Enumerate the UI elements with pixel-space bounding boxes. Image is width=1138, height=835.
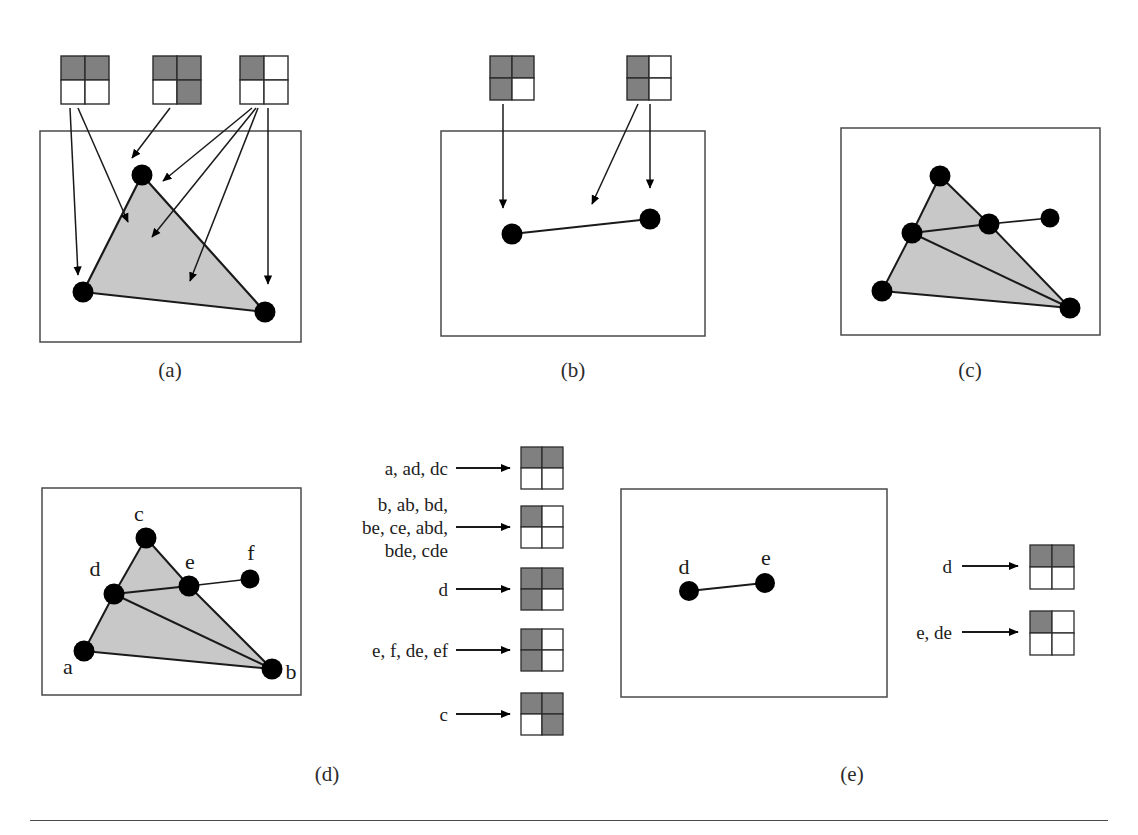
panel-b-icon-1 <box>490 56 534 100</box>
panel-d-vertex-f <box>241 570 260 589</box>
panel-a-icon-2 <box>153 56 201 104</box>
panel-e-group <box>621 489 1074 697</box>
panel-d-vertex-b <box>262 659 283 680</box>
panel-e-vertex-d <box>679 581 699 601</box>
panel-d-label-b: b <box>286 659 297 684</box>
panel-d-label-f: f <box>247 540 255 565</box>
map-label-line: d <box>439 579 449 600</box>
bottom-rule <box>30 820 1108 821</box>
panel-d-vertex-e <box>179 576 200 597</box>
map-label-line: e, f, de, ef <box>372 640 448 661</box>
caption-b: (b) <box>543 358 603 383</box>
map-label-line: a, ad, dc <box>385 458 448 479</box>
figure-root: c d e f a b d e a, ad, dc b, ab, bd, be,… <box>0 0 1138 835</box>
panel-c-group <box>841 128 1100 335</box>
panel-e-label-e: e <box>761 545 771 570</box>
panel-e-map-label-2: e, de <box>840 621 952 644</box>
panel-c-vertex-c <box>930 166 951 187</box>
panel-c-vertex-d <box>902 223 923 244</box>
panel-d-label-c: c <box>134 501 144 526</box>
panel-d-map-label-2: b, ab, bd, be, ce, abd, bde, cde <box>290 493 448 562</box>
panel-d-map-label-3: d <box>300 578 448 601</box>
figure-vector-layer: c d e f a b d e <box>0 0 1138 835</box>
panel-d-vertex-c <box>136 528 157 549</box>
panel-d-label-e: e <box>185 549 195 574</box>
panel-d-vertex-d <box>104 584 125 605</box>
panel-c-vertex-e <box>979 214 1000 235</box>
panel-a-vertex-a <box>73 282 94 303</box>
panel-a-icon-3 <box>240 56 288 104</box>
panel-d-map-icon-5 <box>521 693 563 735</box>
panel-d-label-a: a <box>63 654 73 679</box>
panel-b-vertex-e <box>640 209 661 230</box>
panel-e-label-d: d <box>679 554 690 579</box>
panel-d-vertex-a <box>74 641 95 662</box>
map-label-line: bde, cde <box>290 539 448 562</box>
panel-b-box <box>441 131 705 336</box>
panel-c-vertex-b <box>1060 298 1081 319</box>
panel-d-label-d: d <box>90 556 101 581</box>
panel-d-map-label-5: c <box>300 703 448 726</box>
panel-d-map-icon-1 <box>521 447 563 489</box>
panel-a-vertex-b <box>255 302 276 323</box>
panel-d-map-label-4: e, f, de, ef <box>300 639 448 662</box>
map-label-line: e, de <box>916 622 952 643</box>
panel-a-vertex-c <box>132 165 153 186</box>
caption-e: (e) <box>822 762 882 787</box>
panel-d-map-icon-4 <box>521 629 563 671</box>
panel-c-vertex-a <box>872 281 893 302</box>
panel-b-vertex-d <box>502 224 523 245</box>
panel-d-map-icon-2 <box>521 506 563 548</box>
map-label-line: d <box>943 556 953 577</box>
panel-e-box <box>621 489 887 697</box>
panel-d-group <box>42 488 301 695</box>
panel-c-vertex-f <box>1041 209 1060 228</box>
map-label-line: c <box>440 704 448 725</box>
caption-c: (c) <box>940 358 1000 383</box>
caption-a: (a) <box>140 358 200 383</box>
panel-e-map-icon-2 <box>1030 611 1074 655</box>
panel-e-map-label-1: d <box>840 555 952 578</box>
panel-e-map-icon-1 <box>1030 545 1074 589</box>
panel-b-group <box>441 56 705 336</box>
panel-b-icon-2 <box>627 56 671 100</box>
caption-d: (d) <box>297 762 357 787</box>
panel-a-group <box>40 56 301 342</box>
panel-d-map-label-1: a, ad, dc <box>300 457 448 480</box>
panel-d-mapping-group <box>456 447 563 735</box>
panel-e-vertex-e <box>755 573 775 593</box>
map-label-line: be, ce, abd, <box>290 516 448 539</box>
panel-d-map-icon-3 <box>521 568 563 610</box>
map-label-line: b, ab, bd, <box>290 493 448 516</box>
panel-a-icon-1 <box>61 56 109 104</box>
